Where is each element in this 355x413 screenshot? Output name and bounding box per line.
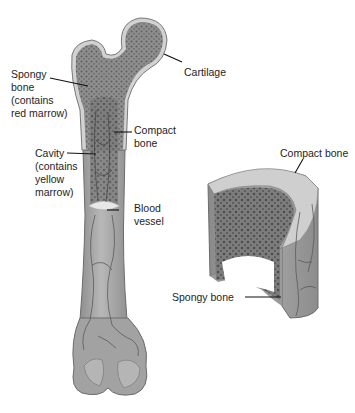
label-cartilage: Cartilage (184, 66, 226, 79)
label-spongy-bone: Spongy bone (contains red marrow) (11, 68, 68, 120)
label-cavity: Cavity (contains yellow marrow) (35, 147, 78, 199)
label-cross-spongy-bone: Spongy bone (172, 291, 234, 304)
bone-illustration (0, 0, 355, 413)
label-cross-compact-bone: Compact bone (280, 147, 348, 160)
label-compact-bone: Compact bone (134, 124, 176, 150)
label-blood-vessel: Blood vessel (134, 202, 164, 228)
